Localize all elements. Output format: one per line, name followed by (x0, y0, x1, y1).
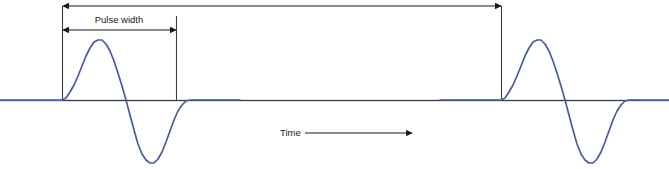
waveform-pulse-2 (440, 40, 669, 163)
waveform-pulse-1 (0, 40, 240, 163)
pulse-timing-diagram: Pulse width Time (0, 0, 669, 169)
diagram-canvas: Pulse width Time (0, 0, 669, 169)
pulse-width-label: Pulse width (95, 14, 144, 25)
time-label: Time (280, 127, 301, 138)
